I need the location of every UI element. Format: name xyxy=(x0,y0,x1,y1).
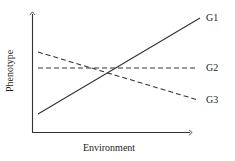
series-label-g2: G2 xyxy=(206,63,218,73)
x-axis-title: Environment xyxy=(0,143,218,153)
series-line-g1 xyxy=(38,18,200,114)
series-label-g3: G3 xyxy=(206,95,218,105)
y-axis-title: Phenotype xyxy=(5,29,15,113)
plot-canvas xyxy=(0,0,235,161)
reaction-norm-figure: G1 G2 G3 Environment Phenotype xyxy=(0,0,235,161)
series-line-g3 xyxy=(38,52,198,100)
series-label-g1: G1 xyxy=(206,13,218,23)
